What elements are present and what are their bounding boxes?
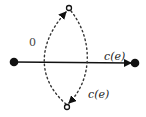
right-node bbox=[131, 59, 140, 68]
right-dotted-arc bbox=[69, 11, 87, 103]
gadget-diagram: 0 c(e) c(e) bbox=[0, 0, 146, 117]
left-arc-label: 0 bbox=[29, 36, 36, 49]
left-node bbox=[10, 58, 19, 67]
right-arc-label: c(e) bbox=[88, 88, 109, 101]
bottom-open-node bbox=[65, 105, 70, 110]
top-open-node bbox=[67, 6, 72, 11]
main-edge-label: c(e) bbox=[104, 50, 125, 63]
left-dotted-arc bbox=[44, 12, 66, 104]
